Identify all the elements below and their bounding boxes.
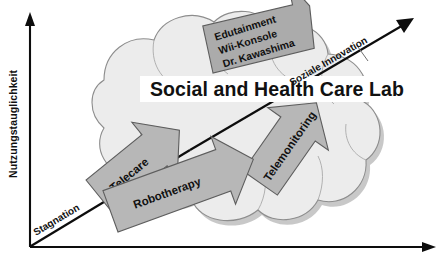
diagram-canvas: Telecare Telemonitoring Robotherapy Edut… [0, 0, 444, 267]
title-banner: Social and Health Care Lab [140, 76, 426, 102]
page-title: Social and Health Care Lab [150, 78, 404, 100]
innovation-cloud-diagram: Telecare Telemonitoring Robotherapy Edut… [0, 0, 444, 267]
y-axis-arrowhead [25, 12, 35, 26]
y-axis-label: Nutzungstauglichkeit [7, 69, 19, 178]
x-axis-arrowhead [422, 242, 436, 252]
soziale-innovation-arrowhead [396, 18, 414, 33]
